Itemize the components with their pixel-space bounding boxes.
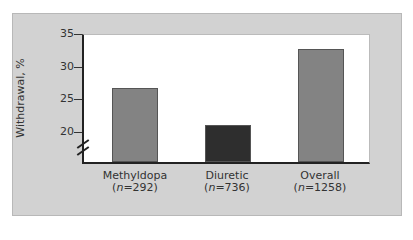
y-tick-25: 25	[50, 92, 74, 105]
bar-overall	[298, 49, 344, 162]
category-n: (n=292)	[90, 182, 180, 194]
plot-area	[82, 34, 370, 164]
x-label-diuretic: Diuretic (n=736)	[182, 170, 272, 194]
category-n: (n=736)	[182, 182, 272, 194]
y-tick-35: 35	[50, 27, 74, 40]
y-tick-mark	[74, 67, 82, 68]
y-tick-mark	[74, 132, 82, 133]
y-axis-label: Withdrawal, %	[14, 58, 27, 137]
x-label-overall: Overall (n=1258)	[275, 170, 365, 194]
bar-diuretic	[205, 125, 251, 162]
bar-methyldopa	[112, 88, 158, 162]
category-n: (n=1258)	[275, 182, 365, 194]
y-tick-mark	[74, 99, 82, 100]
x-label-methyldopa: Methyldopa (n=292)	[90, 170, 180, 194]
y-tick-30: 30	[50, 60, 74, 73]
y-tick-20: 20	[50, 125, 74, 138]
y-tick-mark	[74, 34, 82, 35]
